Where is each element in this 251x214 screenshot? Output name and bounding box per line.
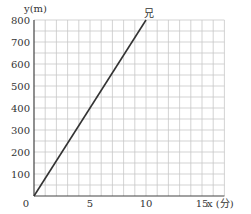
y-tick-label: 400: [11, 103, 30, 114]
y-tick-labels: 100200300400500600700800: [11, 15, 30, 180]
x-axis-label: x (分): [207, 198, 234, 209]
y-tick-label: 500: [11, 81, 30, 92]
y-axis-label: y(m): [23, 3, 47, 14]
x-tick-label: 5: [87, 198, 93, 209]
y-tick-label: 200: [11, 147, 30, 158]
y-tick-label: 700: [11, 37, 30, 48]
line-chart: 100200300400500600700800 51015 y(m) x (分…: [0, 0, 251, 214]
x-tick-labels: 51015: [87, 198, 209, 209]
series-label: 兄: [144, 8, 154, 19]
y-tick-label: 100: [11, 169, 30, 180]
origin-label: 0: [23, 198, 29, 209]
y-tick-label: 800: [11, 15, 30, 26]
y-tick-label: 300: [11, 125, 30, 136]
x-tick-label: 10: [140, 198, 153, 209]
y-tick-label: 600: [11, 59, 30, 70]
